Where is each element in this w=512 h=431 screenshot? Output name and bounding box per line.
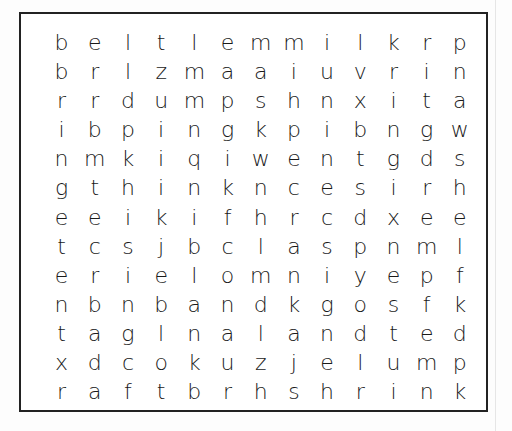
grid-letter: i [145,115,178,144]
grid-letter: n [277,261,310,290]
grid-letter: n [377,232,410,261]
grid-letter: r [78,261,111,290]
grid-letter: k [443,377,476,406]
letter-grid: beltlemmilkrpbrlzmaaiuvrinrrdumpshnxitai… [45,28,476,406]
grid-letter: r [211,377,244,406]
grid-letter: e [410,319,443,348]
grid-letter: t [78,173,111,202]
grid-letter: n [244,173,277,202]
grid-letter: e [277,144,310,173]
grid-letter: b [78,115,111,144]
grid-letter: b [45,28,78,57]
grid-letter: h [277,86,310,115]
grid-letter: m [178,86,211,115]
grid-letter: q [178,144,211,173]
grid-letter: l [178,28,211,57]
grid-letter: l [244,319,277,348]
grid-letter: i [45,115,78,144]
grid-letter: p [443,28,476,57]
grid-letter: h [311,377,344,406]
grid-letter: e [45,203,78,232]
grid-letter: f [211,203,244,232]
grid-letter: e [410,203,443,232]
grid-letter: c [78,232,111,261]
grid-letter: n [111,290,144,319]
grid-letter: n [45,144,78,173]
grid-letter: f [443,261,476,290]
grid-letter: u [377,348,410,377]
grid-letter: s [443,144,476,173]
grid-letter: g [311,290,344,319]
grid-letter: h [443,173,476,202]
grid-letter: k [443,290,476,319]
grid-letter: d [344,319,377,348]
grid-letter: b [145,290,178,319]
grid-letter: p [211,86,244,115]
grid-letter: b [178,232,211,261]
grid-letter: g [111,319,144,348]
grid-letter: i [211,144,244,173]
grid-letter: x [344,86,377,115]
grid-letter: s [111,232,144,261]
grid-letter: i [111,203,144,232]
grid-letter: t [145,377,178,406]
grid-letter: m [244,261,277,290]
grid-letter: l [178,261,211,290]
grid-letter: m [178,57,211,86]
grid-letter: g [377,144,410,173]
grid-letter: n [178,173,211,202]
grid-letter: a [211,57,244,86]
grid-letter: e [45,261,78,290]
grid-letter: t [45,319,78,348]
grid-letter: k [377,28,410,57]
grid-letter: v [344,57,377,86]
grid-letter: m [277,28,310,57]
grid-letter: i [311,261,344,290]
grid-letter: i [311,115,344,144]
grid-letter: n [410,377,443,406]
grid-letter: u [311,57,344,86]
grid-letter: b [178,377,211,406]
grid-letter: g [410,115,443,144]
grid-letter: t [145,28,178,57]
grid-letter: f [410,290,443,319]
grid-letter: i [377,377,410,406]
grid-letter: w [443,115,476,144]
grid-letter: y [344,261,377,290]
grid-letter: i [311,28,344,57]
grid-letter: x [377,203,410,232]
grid-letter: n [311,319,344,348]
grid-letter: i [410,57,443,86]
grid-letter: d [244,290,277,319]
grid-letter: p [277,115,310,144]
grid-letter: s [277,377,310,406]
grid-letter: n [311,144,344,173]
grid-letter: u [145,86,178,115]
grid-letter: o [211,261,244,290]
grid-letter: k [145,203,178,232]
grid-letter: a [78,377,111,406]
grid-letter: t [45,232,78,261]
grid-letter: o [344,290,377,319]
grid-letter: p [111,115,144,144]
grid-letter: i [377,86,410,115]
grid-letter: a [244,57,277,86]
grid-letter: a [178,290,211,319]
grid-letter: b [344,115,377,144]
grid-letter: r [277,203,310,232]
grid-letter: j [277,348,310,377]
grid-letter: l [443,232,476,261]
grid-letter: n [178,115,211,144]
grid-letter: g [211,115,244,144]
grid-letter: r [78,86,111,115]
grid-letter: s [344,173,377,202]
grid-letter: g [45,173,78,202]
grid-letter: e [211,28,244,57]
grid-letter: i [145,144,178,173]
grid-letter: z [145,57,178,86]
grid-letter: e [443,203,476,232]
grid-letter: p [410,261,443,290]
grid-letter: b [45,57,78,86]
grid-letter: l [111,57,144,86]
grid-letter: k [178,348,211,377]
